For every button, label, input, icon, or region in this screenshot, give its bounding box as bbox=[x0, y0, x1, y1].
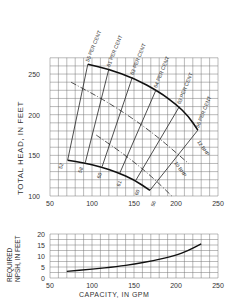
efficiency-line bbox=[68, 64, 88, 160]
x-tick-label: 150 bbox=[128, 200, 140, 207]
efficiency-low-label: 58 bbox=[77, 166, 85, 173]
y-tick-label: 20 bbox=[37, 231, 45, 238]
y-tick-label: 10 bbox=[37, 253, 45, 260]
axis-ticks: 1001502002505010015020025005101520501001… bbox=[28, 71, 224, 289]
efficiency-low-label: 60 bbox=[95, 172, 103, 179]
y-tick-label: 150 bbox=[28, 152, 40, 159]
chart-curves: 55 PER CENT5261 PER CENT5863 PER CENT606… bbox=[57, 29, 213, 272]
efficiency-low-label: 52 bbox=[57, 162, 65, 169]
x-tick-label: 250 bbox=[212, 200, 224, 207]
efficiency-label: 61 PER CENT bbox=[105, 34, 123, 68]
x-axis-label: CAPACITY, IN GPM bbox=[79, 291, 149, 298]
y-tick-label: 0 bbox=[41, 275, 45, 282]
y-tick-label: 250 bbox=[28, 71, 40, 78]
efficiency-low-label: 60 bbox=[133, 188, 141, 195]
efficiency-line bbox=[85, 69, 109, 162]
x-tick-label: 50 bbox=[46, 282, 54, 289]
x-tick-label: 200 bbox=[170, 282, 182, 289]
y-tick-label: 5 bbox=[41, 264, 45, 271]
pump-performance-chart: 55 PER CENT5261 PER CENT5863 PER CENT606… bbox=[0, 0, 240, 305]
x-tick-label: 250 bbox=[212, 282, 224, 289]
efficiency-low-label: 56 bbox=[149, 200, 157, 207]
efficiency-low-label: 61 bbox=[115, 180, 123, 187]
x-tick-label: 100 bbox=[86, 200, 98, 207]
x-tick-label: 200 bbox=[170, 200, 182, 207]
npsh-chart-grid bbox=[50, 234, 218, 278]
x-tick-label: 50 bbox=[46, 200, 54, 207]
y-axis-label-npsh-1: REQUIRED bbox=[6, 247, 14, 282]
y-tick-label: 100 bbox=[28, 193, 40, 200]
y-tick-label: 15 bbox=[37, 242, 45, 249]
y-tick-label: 200 bbox=[28, 112, 40, 119]
y-axis-label-npsh-2: NPSH, IN FEET bbox=[14, 235, 21, 282]
efficiency-label: 63 PER CENT bbox=[129, 42, 147, 76]
x-tick-label: 100 bbox=[86, 282, 98, 289]
bhp10-label: 10 BHP bbox=[173, 160, 188, 178]
bhp12-label: 12 BHP bbox=[196, 139, 211, 157]
y-axis-label-head: TOTAL HEAD, IN FEET bbox=[16, 101, 25, 195]
efficiency-label: 63 PER CENT bbox=[176, 71, 194, 105]
x-tick-label: 150 bbox=[128, 282, 140, 289]
